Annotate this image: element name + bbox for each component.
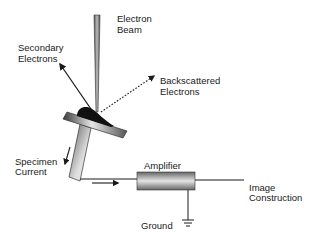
label-electron-beam: Electron Beam <box>117 13 155 35</box>
specimen-post <box>69 124 91 181</box>
backscattered-electrons-arrow <box>101 76 154 112</box>
secondary-electrons-arrow <box>60 64 93 112</box>
label-secondary-electrons: Secondary Electrons <box>18 42 66 64</box>
electron-beam <box>94 15 100 112</box>
label-backscattered-electrons: Backscattered Electrons <box>160 75 223 97</box>
label-specimen-current: Specimen Current <box>15 156 60 177</box>
label-ground: Ground <box>141 220 173 231</box>
specimen-current-arrow <box>65 147 70 164</box>
label-image-construction: Image Construction <box>249 182 302 203</box>
sem-diagram: Electron Beam Secondary Electrons Backsc… <box>0 0 324 242</box>
ground-symbol <box>182 190 194 226</box>
label-amplifier: Amplifier <box>144 160 181 171</box>
amplifier-box <box>137 172 195 190</box>
